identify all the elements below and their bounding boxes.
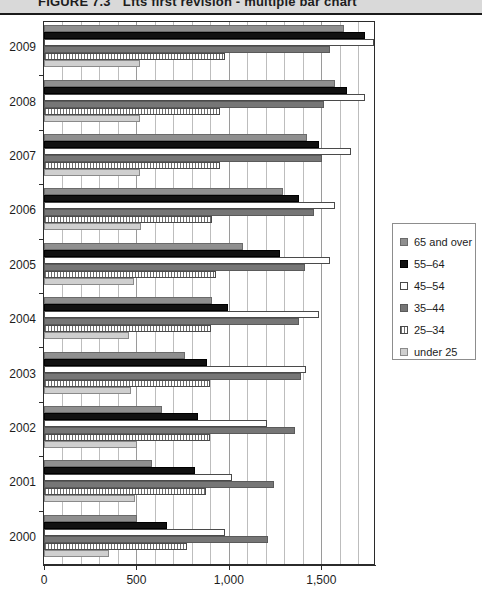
bar	[44, 148, 351, 155]
figure-number: FIGURE 7.3	[38, 0, 111, 9]
bar	[44, 94, 365, 101]
bar	[44, 380, 210, 387]
bar	[44, 325, 211, 332]
x-axis-tick	[229, 565, 230, 570]
legend-item-45_54: 45–54	[400, 275, 475, 297]
y-axis-label-2001: 2001	[0, 475, 36, 489]
bar	[44, 515, 137, 522]
bar	[44, 474, 232, 481]
bar	[44, 304, 228, 311]
bar	[44, 271, 216, 278]
y-axis-tick	[39, 456, 44, 457]
legend-label: 45–54	[414, 280, 445, 292]
legend-swatch-icon	[400, 326, 408, 334]
bar	[44, 87, 347, 94]
legend-item-25_34: 25–34	[400, 319, 475, 341]
y-axis-label-2002: 2002	[0, 421, 36, 435]
bar	[44, 195, 299, 202]
y-axis-label-2009: 2009	[0, 40, 36, 54]
x-axis-label: 0	[41, 573, 48, 587]
bar	[44, 60, 140, 67]
bar-group-2005	[44, 240, 374, 294]
bar	[44, 216, 212, 223]
legend-label: 65 and over	[414, 236, 472, 248]
bar	[44, 243, 243, 250]
y-axis-label-2000: 2000	[0, 530, 36, 544]
bar-group-2000	[44, 512, 374, 565]
legend-label: 35–44	[414, 302, 445, 314]
bar	[44, 80, 335, 87]
bar	[44, 427, 295, 434]
bar	[44, 488, 206, 495]
bar	[44, 202, 335, 209]
bar	[44, 32, 365, 39]
bar	[44, 25, 344, 32]
y-axis-tick	[39, 75, 44, 76]
bar	[44, 460, 152, 467]
bar	[44, 467, 195, 474]
bar	[44, 529, 225, 536]
bar	[44, 101, 324, 108]
x-axis-tick	[44, 565, 45, 570]
bar	[44, 332, 129, 339]
y-axis-label-2005: 2005	[0, 258, 36, 272]
x-axis-label: 500	[126, 573, 146, 587]
y-axis-tick	[39, 130, 44, 131]
bar	[44, 522, 167, 529]
bar	[44, 297, 212, 304]
bar	[44, 406, 162, 413]
legend-item-65_and_over: 65 and over	[400, 231, 475, 253]
bar-group-2003	[44, 348, 374, 402]
bar-group-2001	[44, 457, 374, 511]
bar	[44, 278, 134, 285]
y-axis-tick	[39, 184, 44, 185]
bar	[44, 536, 268, 543]
bar	[44, 223, 141, 230]
bar	[44, 318, 299, 325]
bar-group-2002	[44, 403, 374, 457]
bar	[44, 420, 267, 427]
bar-group-2006	[44, 185, 374, 239]
legend-swatch-icon	[400, 304, 408, 312]
bar	[44, 441, 137, 448]
bar	[44, 250, 280, 257]
chart-area: 05001,0001,50020092008200720062005200420…	[0, 13, 482, 592]
y-axis-label-2003: 2003	[0, 367, 36, 381]
bar	[44, 373, 301, 380]
y-axis-label-2004: 2004	[0, 312, 36, 326]
y-axis-tick	[39, 293, 44, 294]
plot-area	[43, 21, 375, 565]
legend-item-55_64: 55–64	[400, 253, 475, 275]
bar	[44, 46, 330, 53]
bar	[44, 481, 274, 488]
bar	[44, 311, 319, 318]
bar	[44, 162, 220, 169]
bar	[44, 188, 283, 195]
bar	[44, 434, 210, 441]
y-axis-label-2008: 2008	[0, 95, 36, 109]
bar-group-2009	[44, 22, 374, 76]
y-axis-tick	[39, 347, 44, 348]
legend-swatch-icon	[400, 238, 408, 246]
bar	[44, 495, 135, 502]
x-axis-tick	[136, 565, 137, 570]
legend-label: 25–34	[414, 324, 445, 336]
figure-title: FIGURE 7.3Lfts first revision - multiple…	[38, 0, 357, 9]
x-axis-label: 1,000	[214, 573, 244, 587]
y-axis-tick	[39, 402, 44, 403]
bar	[44, 387, 131, 394]
bar	[44, 359, 207, 366]
bar	[44, 39, 374, 46]
bar	[44, 134, 307, 141]
legend-label: 55–64	[414, 258, 445, 270]
bar-group-2004	[44, 294, 374, 348]
legend-item-under_25: under 25	[400, 341, 475, 363]
x-axis-tick	[321, 565, 322, 570]
bar	[44, 264, 305, 271]
legend-label: under 25	[414, 346, 457, 358]
y-axis-tick	[39, 511, 44, 512]
bar	[44, 141, 319, 148]
figure-caption: Lfts first revision - multiple bar chart	[123, 0, 357, 9]
legend-swatch-icon	[400, 348, 408, 356]
y-axis-label-2006: 2006	[0, 203, 36, 217]
